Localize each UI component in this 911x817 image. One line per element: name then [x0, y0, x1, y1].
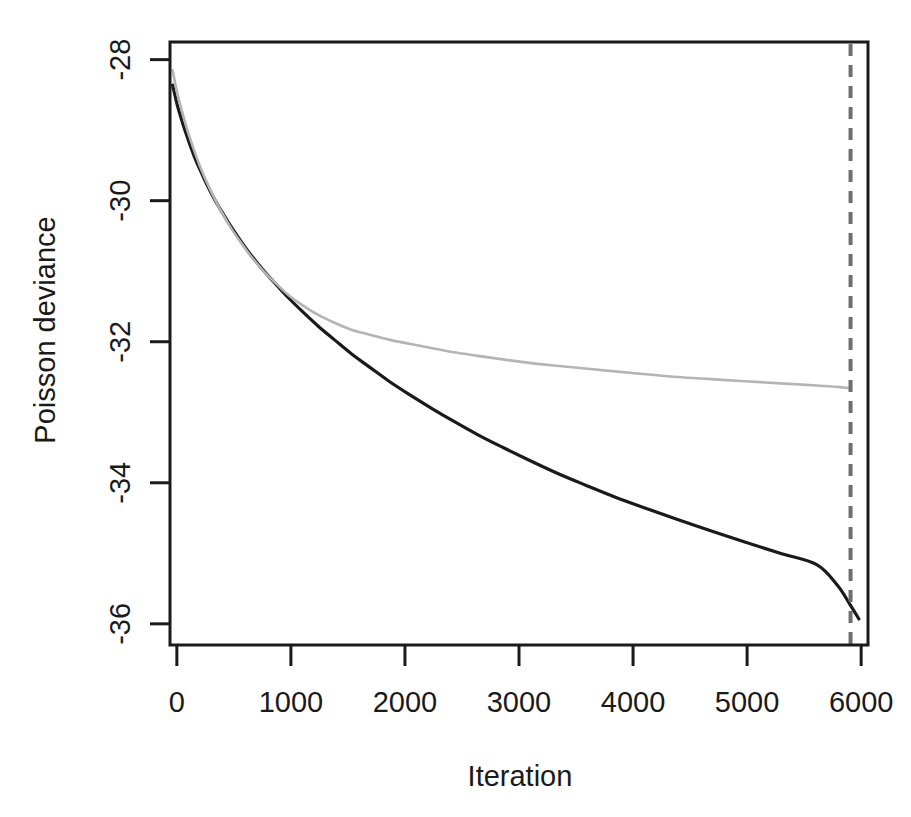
- x-tick-label: 3000: [487, 686, 552, 718]
- x-tick-label: 0: [169, 686, 185, 718]
- x-axis: 0100020003000400050006000: [169, 645, 894, 718]
- x-tick-label: 1000: [259, 686, 324, 718]
- y-tick-label: -28: [104, 39, 136, 81]
- series-line: [173, 85, 859, 619]
- poisson-deviance-plot: Poisson deviance Iteration -28-30-32-34-…: [0, 0, 911, 817]
- x-tick-label: 2000: [373, 686, 438, 718]
- y-tick-label: -34: [104, 462, 136, 504]
- y-axis: -28-30-32-34-36: [104, 39, 170, 645]
- x-tick-label: 4000: [601, 686, 666, 718]
- series-layer: [173, 70, 859, 619]
- chart-figure: Poisson deviance Iteration -28-30-32-34-…: [0, 0, 911, 817]
- x-tick-label: 5000: [715, 686, 780, 718]
- y-tick-label: -30: [104, 180, 136, 222]
- x-axis-title: Iteration: [468, 760, 573, 792]
- y-tick-label: -36: [104, 603, 136, 645]
- y-axis-title: Poisson deviance: [29, 216, 61, 443]
- series-line: [173, 70, 851, 388]
- plot-frame: [170, 42, 868, 645]
- y-tick-label: -32: [104, 321, 136, 363]
- x-tick-label: 6000: [829, 686, 894, 718]
